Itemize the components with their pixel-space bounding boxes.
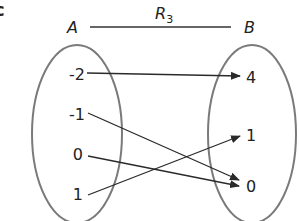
part-label: c [0, 0, 5, 20]
codomain-element: 0 [246, 177, 256, 196]
codomain-element: 4 [246, 68, 256, 87]
domain-element: 1 [73, 185, 83, 204]
domain-label: A [66, 18, 78, 37]
domain-element: -2 [69, 65, 85, 84]
mapping-arrow-neg1-to-0 [88, 113, 239, 180]
mapping-arrow-0-to-0 [88, 156, 239, 186]
relation-label: R3 [155, 4, 173, 26]
relation-diagram: c A R3 B -2 -1 0 1 4 1 0 [0, 0, 299, 221]
domain-element: -1 [69, 105, 85, 124]
codomain-element: 1 [246, 126, 256, 145]
domain-element: 0 [73, 145, 83, 164]
codomain-label: B [244, 18, 255, 37]
